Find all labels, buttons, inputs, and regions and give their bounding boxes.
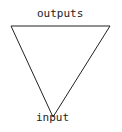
input-label: input <box>36 112 69 124</box>
triangle-diagram: outputs input <box>0 0 122 132</box>
outputs-label: outputs <box>37 8 83 20</box>
